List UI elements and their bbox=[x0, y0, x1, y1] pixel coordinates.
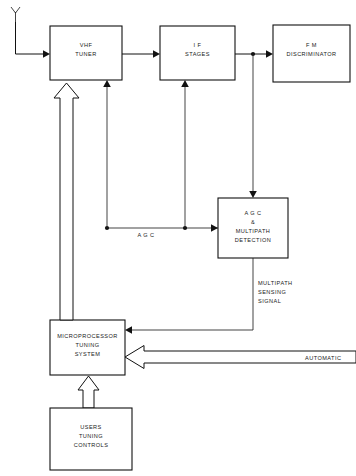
wire-agc-feedback-bus: A G C bbox=[103, 80, 218, 238]
antenna-icon bbox=[11, 7, 20, 22]
block-vhf-tuner[interactable]: VHF TUNER bbox=[50, 26, 122, 80]
block-users-tuning-controls[interactable]: USERS TUNING CONTROLS bbox=[50, 408, 132, 470]
label-multipath-line-2: SENSING bbox=[258, 289, 286, 295]
wire-if-tap-to-agc-block bbox=[249, 54, 257, 198]
block-microprocessor-line-3: SYSTEM bbox=[75, 351, 101, 357]
block-if-stages[interactable]: I F STAGES bbox=[160, 26, 235, 80]
block-users-line-1: USERS bbox=[80, 424, 102, 430]
wire-users-to-microprocessor bbox=[78, 376, 99, 408]
block-fm-discriminator-line-2: DISCRIMINATOR bbox=[286, 51, 336, 57]
label-automatic: AUTOMATIC bbox=[305, 355, 341, 361]
block-fm-discriminator-line-1: F M bbox=[306, 42, 317, 48]
wire-tuning-control-to-tuner bbox=[54, 83, 79, 320]
block-users-line-2: TUNING bbox=[79, 433, 103, 439]
wire-tuner-to-if bbox=[122, 50, 160, 58]
block-diagram-svg: VHF TUNER I F STAGES F M DISCRIMINATOR bbox=[0, 0, 356, 476]
block-users-line-3: CONTROLS bbox=[74, 442, 109, 448]
block-microprocessor-line-1: MICROPROCESSOR bbox=[57, 333, 118, 339]
block-microprocessor-tuning-system[interactable]: MICROPROCESSOR TUNING SYSTEM bbox=[50, 320, 125, 375]
wire-if-to-discriminator bbox=[235, 50, 273, 58]
wire-automatic-input: AUTOMATIC bbox=[125, 346, 356, 369]
antenna-feed-wire bbox=[16, 22, 51, 58]
wire-multipath-sensing-signal: MULTIPATH SENSING SIGNAL bbox=[125, 258, 293, 334]
block-agc-line-1: A G C bbox=[244, 210, 261, 216]
block-vhf-tuner-line-2: TUNER bbox=[75, 51, 97, 57]
block-fm-discriminator[interactable]: F M DISCRIMINATOR bbox=[273, 25, 350, 82]
block-diagram-canvas: VHF TUNER I F STAGES F M DISCRIMINATOR bbox=[0, 0, 356, 476]
block-agc-multipath-detection[interactable]: A G C & MULTIPATH DETECTION bbox=[218, 198, 288, 258]
block-agc-line-3: MULTIPATH bbox=[236, 228, 271, 234]
block-if-stages-line-1: I F bbox=[194, 42, 202, 48]
block-agc-line-4: DETECTION bbox=[235, 237, 271, 243]
label-multipath-line-3: SIGNAL bbox=[258, 298, 281, 304]
label-agc: A G C bbox=[137, 232, 154, 238]
block-vhf-tuner-line-1: VHF bbox=[80, 42, 93, 48]
block-microprocessor-line-2: TUNING bbox=[75, 342, 99, 348]
block-if-stages-line-2: STAGES bbox=[185, 51, 210, 57]
block-agc-line-2: & bbox=[251, 219, 255, 225]
label-multipath-line-1: MULTIPATH bbox=[258, 280, 293, 286]
